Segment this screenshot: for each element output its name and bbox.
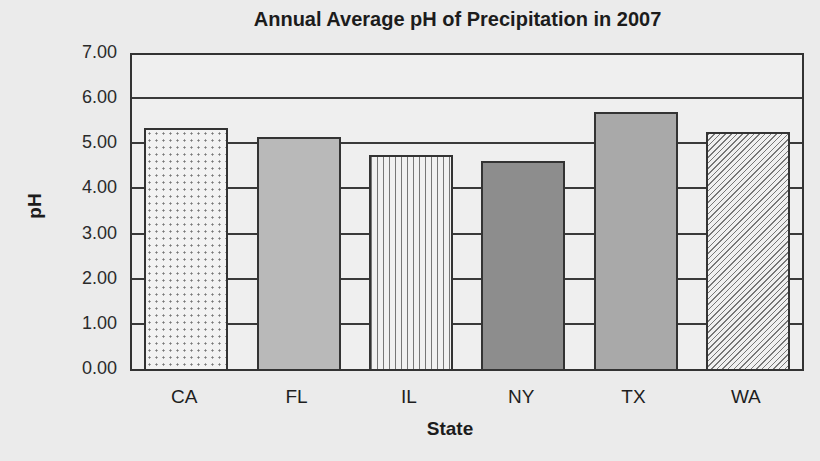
gridline: [132, 97, 802, 99]
gridline: [132, 278, 802, 280]
y-tick-label: 7.00: [62, 43, 117, 61]
gridline: [132, 323, 802, 325]
y-tick-label: 0.00: [62, 359, 117, 377]
bar-fl: [257, 137, 341, 369]
y-tick-label: 4.00: [62, 178, 117, 196]
x-axis-label: State: [400, 418, 500, 440]
x-tick-label: CA: [142, 386, 226, 408]
x-tick-label: WA: [704, 386, 788, 408]
y-tick-label: 3.00: [62, 224, 117, 242]
bar-ca: [144, 128, 228, 369]
x-tick-label: FL: [255, 386, 339, 408]
bar-ny: [481, 161, 565, 369]
bar-tx: [594, 112, 678, 369]
plot-area: [130, 53, 804, 371]
y-tick-label: 6.00: [62, 88, 117, 106]
y-tick-label: 1.00: [62, 314, 117, 332]
gridline: [132, 187, 802, 189]
y-axis-label: pH: [24, 193, 46, 218]
gridline: [132, 233, 802, 235]
x-tick-label: IL: [367, 386, 451, 408]
chart-title: Annual Average pH of Precipitation in 20…: [0, 8, 820, 31]
bar-il: [369, 155, 453, 369]
x-tick-label: NY: [479, 386, 563, 408]
gridline: [132, 142, 802, 144]
y-tick-label: 2.00: [62, 269, 117, 287]
y-tick-label: 5.00: [62, 133, 117, 151]
x-tick-label: TX: [592, 386, 676, 408]
bar-wa: [706, 132, 790, 369]
